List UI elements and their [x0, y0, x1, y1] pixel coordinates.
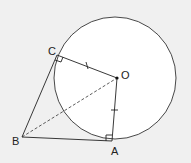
segment-ba	[22, 137, 112, 141]
label-b: B	[12, 135, 19, 147]
circle	[54, 17, 176, 139]
segment-bc	[22, 55, 57, 137]
label-a: A	[111, 145, 119, 157]
center-point-o	[115, 76, 118, 79]
geometry-figure: C O B A	[0, 0, 191, 163]
label-o: O	[121, 69, 130, 81]
label-c: C	[48, 45, 56, 57]
diagram-canvas: C O B A	[0, 0, 191, 163]
